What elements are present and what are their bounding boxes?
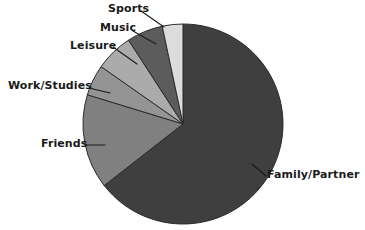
pie-label-music: Music <box>100 22 136 34</box>
pie-chart-figure: Sports Music Leisure Work/Studies Friend… <box>0 0 365 230</box>
pie-label-family-partner: Family/Partner <box>267 169 359 181</box>
pie-label-leisure: Leisure <box>70 40 116 52</box>
pie-label-friends: Friends <box>41 138 87 150</box>
pie-label-sports: Sports <box>108 3 149 15</box>
pie-slices <box>83 24 283 224</box>
pie-label-work-studies: Work/Studies <box>8 80 92 92</box>
pie-chart-svg <box>0 0 365 230</box>
